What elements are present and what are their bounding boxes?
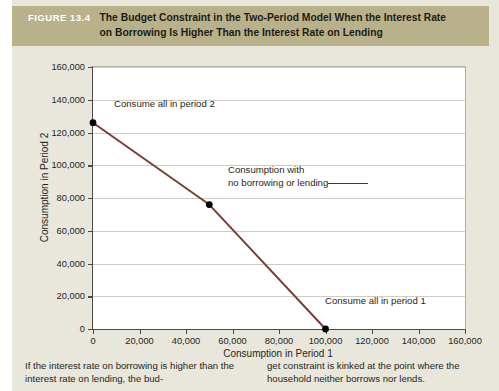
gridline (93, 133, 465, 134)
caption-column-1: If the interest rate on borrowing is hig… (25, 359, 243, 385)
x-axis-title: Consumption in Period 1 (92, 348, 464, 359)
annotation-no-borrowing-line-2: no borrowing or lending (228, 177, 328, 190)
figure-container: FIGURE 13.4 The Budget Constraint in the… (0, 0, 499, 391)
x-axis-tick-mark (326, 329, 327, 334)
y-axis-tick-label: 100,000 (51, 160, 85, 170)
caption-column-2: get constraint is kinked at the point wh… (267, 359, 485, 385)
x-axis-tick-mark (279, 329, 280, 334)
x-axis-tick-label: 60,000 (218, 336, 246, 346)
data-point-marker (206, 201, 213, 208)
y-axis-tick-mark (88, 264, 93, 265)
y-axis-tick-label: 80,000 (57, 193, 85, 203)
x-axis-tick-label: 0 (90, 336, 95, 346)
y-axis-tick-mark (88, 296, 93, 297)
x-axis-tick-mark (465, 329, 466, 334)
figure-title-band: FIGURE 13.4 The Budget Constraint in the… (12, 6, 489, 46)
x-axis-tick-mark (372, 329, 373, 334)
chart: Consumption in Period 2 020,00040,00060,… (12, 52, 489, 352)
x-axis-tick-label: 80,000 (265, 336, 293, 346)
gridline (93, 67, 465, 68)
y-axis-tick-label: 40,000 (57, 259, 85, 269)
y-axis-tick-label: 20,000 (57, 291, 85, 301)
x-axis-tick-label: 100,000 (309, 336, 343, 346)
x-axis-tick-mark (419, 329, 420, 334)
figure-title: The Budget Constraint in the Two-Period … (100, 11, 460, 40)
x-axis-tick-mark (233, 329, 234, 334)
x-axis-tick-mark (140, 329, 141, 334)
annotation-consume-all-period-1: Consume all in period 1 (325, 295, 426, 308)
x-axis-tick-label: 160,000 (448, 336, 482, 346)
y-axis-tick-mark (88, 165, 93, 166)
gridline (93, 198, 465, 199)
y-axis-tick-mark (88, 198, 93, 199)
y-axis-tick-label: 140,000 (51, 95, 85, 105)
y-axis-tick-label: 60,000 (57, 226, 85, 236)
annotation-consume-all-period-2: Consume all in period 2 (114, 98, 215, 111)
x-axis-tick-label: 20,000 (125, 336, 153, 346)
x-axis-tick-mark (186, 329, 187, 334)
x-axis-tick-label: 40,000 (172, 336, 200, 346)
gridline (93, 264, 465, 265)
x-axis-tick-mark (93, 329, 94, 334)
gridline (93, 231, 465, 232)
y-axis-tick-mark (88, 231, 93, 232)
annotation-no-borrowing-line-1: Consumption with (228, 164, 328, 177)
figure-caption: If the interest rate on borrowing is hig… (25, 359, 485, 385)
x-axis-tick-label: 120,000 (355, 336, 389, 346)
y-axis-tick-mark (88, 133, 93, 134)
annotation-no-borrowing-or-lending: Consumption with no borrowing or lending (228, 164, 328, 189)
y-axis-tick-label: 0 (80, 324, 85, 334)
figure-number-label: FIGURE 13.4 (28, 11, 91, 23)
x-axis-tick-label: 140,000 (402, 336, 436, 346)
y-axis-title: Consumption in Period 2 (39, 93, 50, 283)
y-axis-tick-label: 120,000 (51, 128, 85, 138)
data-point-marker (90, 119, 97, 126)
y-axis-tick-mark (88, 100, 93, 101)
y-axis-tick-mark (88, 67, 93, 68)
y-axis-tick-label: 160,000 (51, 62, 85, 72)
annotation-leader-line (328, 183, 368, 184)
